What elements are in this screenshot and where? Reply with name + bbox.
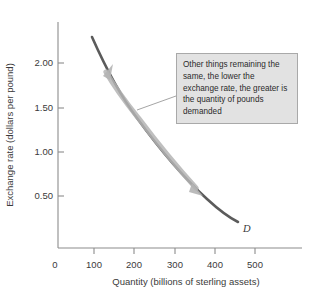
x-tick-label-5: 500: [247, 259, 263, 270]
y-tick-label-2: 1.00: [35, 146, 54, 157]
chart-canvas: 2.00 1.50 1.00 0.50 0 100 200 300 400 50…: [0, 0, 313, 295]
callout-text: Other things remaining the same, the low…: [183, 59, 292, 118]
y-tick-label-3: 0.50: [35, 190, 54, 201]
x-axis-title: Quantity (billions of sterling assets): [112, 276, 259, 287]
x-tick-label-0: 0: [52, 259, 57, 270]
x-tick-label-4: 400: [207, 259, 223, 270]
callout-leader-line: [137, 96, 176, 110]
demand-curve-figure: 2.00 1.50 1.00 0.50 0 100 200 300 400 50…: [0, 0, 313, 295]
x-tick-label-3: 300: [167, 259, 183, 270]
x-tick-label-1: 100: [86, 259, 102, 270]
callout-box: Other things remaining the same, the low…: [176, 53, 298, 124]
x-tick-label-2: 200: [126, 259, 142, 270]
y-tick-label-0: 2.00: [35, 57, 54, 68]
curve-label-d: D: [242, 223, 251, 234]
y-tick-label-1: 1.50: [35, 102, 54, 113]
y-axis-title: Exchange rate (dollars per pound): [4, 63, 15, 207]
